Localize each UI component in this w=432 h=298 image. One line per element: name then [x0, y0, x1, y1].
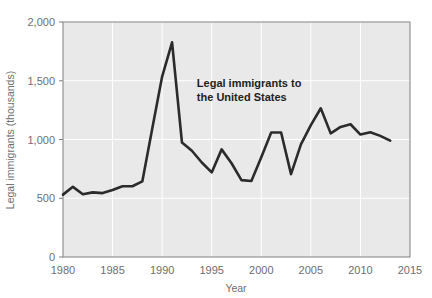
y-tick-label: 2,000	[27, 16, 55, 28]
x-tick-label: 2015	[398, 264, 422, 276]
x-tick-label: 1995	[199, 264, 223, 276]
y-tick-label: 500	[37, 192, 55, 204]
x-tick-label: 2010	[348, 264, 372, 276]
chart-container: 05001,0001,5002,000 19801985199019952000…	[0, 0, 432, 298]
annotation-label-line2: the United States	[197, 91, 287, 103]
line-chart: 05001,0001,5002,000 19801985199019952000…	[0, 0, 432, 298]
x-axis-title: Year	[225, 282, 247, 294]
x-tick-label: 1990	[150, 264, 174, 276]
y-axis-title: Legal immigrants (thousands)	[4, 71, 16, 209]
y-tick-label: 1,000	[27, 134, 55, 146]
annotation-label-line1: Legal immigrants to	[197, 77, 302, 89]
x-tick-label: 1985	[100, 264, 124, 276]
x-tick-label: 1980	[51, 264, 75, 276]
y-tick-label: 1,500	[27, 75, 55, 87]
y-tick-label: 0	[49, 251, 55, 263]
x-tick-label: 2005	[299, 264, 323, 276]
x-tick-label: 2000	[249, 264, 273, 276]
